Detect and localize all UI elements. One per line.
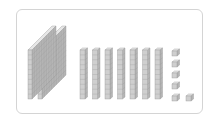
hundreds-flats xyxy=(28,26,66,99)
ones-cubes xyxy=(172,49,194,101)
one-cube xyxy=(172,60,180,67)
ten-rod xyxy=(130,48,138,99)
one-cube xyxy=(172,49,180,56)
ten-rod xyxy=(143,48,151,99)
tens-rods xyxy=(80,48,163,99)
ten-rod xyxy=(80,48,88,99)
one-cube xyxy=(172,82,180,89)
ten-rod xyxy=(118,48,126,99)
ten-rod xyxy=(93,48,101,99)
one-cube xyxy=(186,94,194,101)
one-cube xyxy=(172,71,180,78)
ten-rod xyxy=(155,48,163,99)
one-cube xyxy=(172,94,180,101)
base-ten-blocks xyxy=(0,0,217,120)
ten-rod xyxy=(105,48,113,99)
